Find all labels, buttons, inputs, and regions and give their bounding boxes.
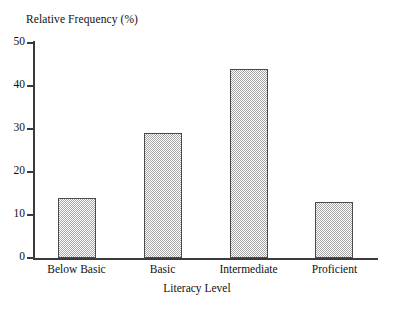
y-axis-tick-mark bbox=[27, 214, 34, 215]
y-axis-tick-label: 10 bbox=[0, 207, 25, 219]
x-axis-category-label: Proficient bbox=[291, 263, 378, 275]
x-axis-category-label: Intermediate bbox=[205, 263, 292, 275]
x-axis-title: Literacy Level bbox=[0, 282, 394, 294]
bar bbox=[58, 198, 96, 258]
bar bbox=[315, 202, 353, 258]
y-axis-tick-mark bbox=[27, 85, 34, 86]
y-axis-tick-label: 30 bbox=[0, 121, 25, 133]
y-axis-tick-mark bbox=[27, 42, 34, 43]
bar bbox=[144, 133, 182, 258]
y-axis-tick-mark bbox=[27, 128, 34, 129]
x-axis-category-label: Below Basic bbox=[33, 263, 120, 275]
y-axis-tick-label: 20 bbox=[0, 164, 25, 176]
y-axis-title: Relative Frequency (%) bbox=[26, 13, 138, 25]
x-axis-line bbox=[33, 258, 378, 260]
x-axis-category-label: Basic bbox=[119, 263, 206, 275]
y-axis-tick-label: 40 bbox=[0, 78, 25, 90]
y-axis-tick-label: 50 bbox=[0, 35, 25, 47]
y-axis-tick-mark bbox=[27, 171, 34, 172]
chart-figure: Relative Frequency (%) 50403020100 Below… bbox=[0, 0, 394, 317]
y-axis-tick-mark bbox=[27, 257, 34, 258]
y-axis-tick-label: 0 bbox=[0, 250, 25, 262]
bar bbox=[230, 69, 268, 258]
y-axis-line bbox=[33, 41, 35, 260]
